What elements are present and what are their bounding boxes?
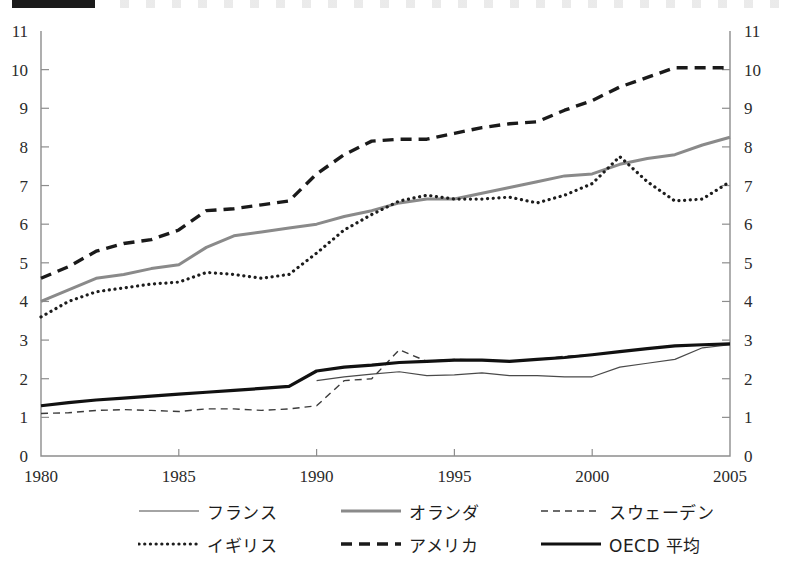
y-axis-left-tick-label: 0 <box>20 447 29 466</box>
legend-swatch-usa <box>340 537 402 551</box>
series-lines <box>41 68 730 414</box>
chart-legend: フランス オランダ スウェーデン イギリス アメリカ OECD 平均 <box>0 496 789 570</box>
legend-swatch-france <box>138 504 200 518</box>
x-axis-tick-label: 1985 <box>162 467 196 486</box>
legend-label-usa: アメリカ <box>409 532 478 557</box>
y-axis-right-tick-label: 5 <box>744 254 753 273</box>
y-axis-left-tick-label: 10 <box>11 61 28 80</box>
y-axis-left-ticks <box>41 70 49 418</box>
legend-label-uk: イギリス <box>207 532 277 557</box>
y-axis-right-labels: 01234567891011 <box>744 22 761 466</box>
y-axis-left-labels: 01234567891011 <box>11 22 29 466</box>
x-axis-tick-label: 2000 <box>575 467 609 486</box>
y-axis-left-tick-label: 5 <box>20 254 29 273</box>
series-line-united-kingdom <box>41 157 730 317</box>
y-axis-right-tick-label: 3 <box>744 331 753 350</box>
y-axis-left-tick-label: 8 <box>20 138 29 157</box>
legend-item-uk[interactable]: イギリス <box>138 529 277 559</box>
x-axis-tick-label: 1995 <box>437 467 471 486</box>
y-axis-left-tick-label: 4 <box>20 292 29 311</box>
legend-swatch-oecd <box>540 537 602 551</box>
y-axis-right-tick-label: 1 <box>744 408 753 427</box>
y-axis-right-tick-label: 11 <box>744 22 760 41</box>
legend-item-usa[interactable]: アメリカ <box>340 529 478 559</box>
y-axis-right-tick-label: 8 <box>744 138 753 157</box>
legend-label-oecd: OECD 平均 <box>609 532 701 557</box>
line-chart: 01234567891011 01234567891011 1980198519… <box>0 0 789 492</box>
x-axis-labels: 198019851990199520002005 <box>24 467 747 486</box>
y-axis-left-tick-label: 6 <box>20 215 29 234</box>
y-axis-right-tick-label: 10 <box>744 61 761 80</box>
legend-swatch-netherlands <box>340 504 402 518</box>
legend-row-1: フランス オランダ スウェーデン <box>0 496 789 526</box>
y-axis-right-tick-label: 6 <box>744 215 753 234</box>
y-axis-left-tick-label: 9 <box>20 99 29 118</box>
x-axis-ticks <box>179 449 592 456</box>
legend-item-oecd[interactable]: OECD 平均 <box>540 529 701 559</box>
legend-label-sweden: スウェーデン <box>609 499 714 524</box>
chart-svg: 01234567891011 01234567891011 1980198519… <box>0 0 789 492</box>
legend-label-france: フランス <box>207 499 277 524</box>
legend-row-2: イギリス アメリカ OECD 平均 <box>0 529 789 559</box>
y-axis-left-tick-label: 3 <box>20 331 29 350</box>
y-axis-left-tick-label: 1 <box>20 408 29 427</box>
legend-item-france[interactable]: フランス <box>138 496 277 526</box>
x-axis-tick-label: 2005 <box>713 467 747 486</box>
y-axis-left-tick-label: 2 <box>20 370 29 389</box>
legend-item-sweden[interactable]: スウェーデン <box>540 496 714 526</box>
legend-item-netherlands[interactable]: オランダ <box>340 496 479 526</box>
x-axis-tick-label: 1980 <box>24 467 58 486</box>
y-axis-right-tick-label: 7 <box>744 177 753 196</box>
series-line-oecd-average <box>41 344 730 406</box>
series-line-sweden <box>41 344 730 414</box>
series-line-france <box>317 345 730 381</box>
x-axis-tick-label: 1990 <box>300 467 334 486</box>
series-line-united-states <box>41 68 730 279</box>
legend-swatch-sweden <box>540 504 602 518</box>
legend-label-netherlands: オランダ <box>409 499 479 524</box>
y-axis-right-ticks <box>722 70 730 418</box>
y-axis-right-tick-label: 0 <box>744 447 753 466</box>
legend-swatch-uk <box>138 537 200 551</box>
y-axis-right-tick-label: 4 <box>744 292 753 311</box>
y-axis-right-tick-label: 9 <box>744 99 753 118</box>
y-axis-left-tick-label: 7 <box>20 177 29 196</box>
axes <box>41 31 730 456</box>
y-axis-right-tick-label: 2 <box>744 370 753 389</box>
chart-page: 01234567891011 01234567891011 1980198519… <box>0 0 789 570</box>
y-axis-left-tick-label: 11 <box>12 22 28 41</box>
series-line-netherlands <box>41 137 730 301</box>
